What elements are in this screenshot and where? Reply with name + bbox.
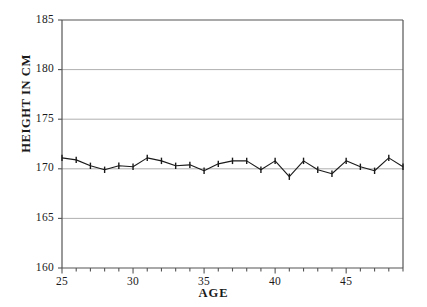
- plot-area: [0, 0, 427, 307]
- x-tick-label: 45: [332, 275, 360, 287]
- y-tick-label: 160: [20, 261, 54, 273]
- y-tick-label: 185: [20, 13, 54, 25]
- y-tick-label: 170: [20, 161, 54, 173]
- y-tick-label: 175: [20, 112, 54, 124]
- x-tick-label: 35: [190, 275, 218, 287]
- axis-frame: [62, 20, 403, 268]
- x-tick-label: 30: [119, 275, 147, 287]
- y-tick-label: 165: [20, 211, 54, 223]
- x-tick-label: 40: [261, 275, 289, 287]
- gridlines: [62, 70, 403, 219]
- x-tick-label: 25: [48, 275, 76, 287]
- y-tick-label: 180: [20, 62, 54, 74]
- chart-figure: HEIGHT IN CM AGE 185180175170165160 2530…: [0, 0, 427, 307]
- x-axis-ticks: [62, 268, 403, 274]
